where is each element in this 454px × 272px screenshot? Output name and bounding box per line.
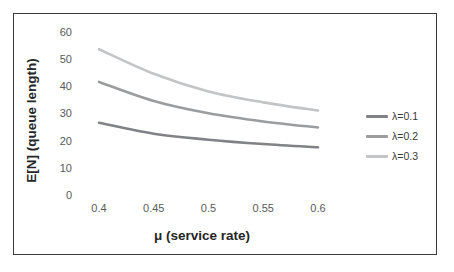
legend-swatch-icon — [366, 115, 388, 118]
legend-swatch-icon — [366, 135, 388, 138]
x-axis-title: μ (service rate) — [72, 228, 332, 243]
chart-figure: 0102030405060 0.40.450.50.550.6 E[N] (qu… — [0, 0, 454, 272]
legend-label: λ=0.2 — [392, 130, 418, 142]
legend-label: λ=0.1 — [392, 110, 418, 122]
legend-item[interactable]: λ=0.3 — [366, 146, 444, 166]
x-axis-tick-label: 0.4 — [91, 203, 106, 214]
y-axis-title: E[N] (queue length) — [24, 41, 39, 201]
x-axis-tick-label: 0.45 — [143, 203, 164, 214]
x-axis-tick-label: 0.5 — [201, 203, 216, 214]
legend-item[interactable]: λ=0.2 — [366, 126, 444, 146]
chart-legend: λ=0.1λ=0.2λ=0.3 — [366, 106, 444, 166]
legend-swatch-icon — [366, 155, 388, 158]
legend-item[interactable]: λ=0.1 — [366, 106, 444, 126]
x-axis-tick-label: 0.55 — [253, 203, 274, 214]
legend-label: λ=0.3 — [392, 150, 418, 162]
x-axis-tick-label: 0.6 — [310, 203, 325, 214]
